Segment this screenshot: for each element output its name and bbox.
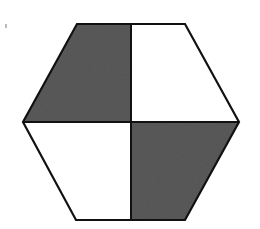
scan-speck bbox=[5, 24, 7, 28]
unshaded-quadrant-bottom-left bbox=[23, 122, 131, 220]
hexagon-diagram bbox=[0, 0, 260, 229]
shaded-quadrant-top-left bbox=[23, 24, 131, 122]
shaded-quadrant-bottom-right bbox=[131, 122, 239, 220]
unshaded-quadrant-top-right bbox=[131, 24, 239, 122]
